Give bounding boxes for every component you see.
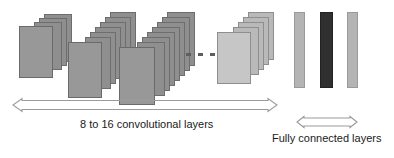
feature-map-card-front [19, 26, 53, 78]
fc-caption: Fully connected layers [272, 132, 381, 145]
conv-block-1 [14, 14, 72, 76]
fc-bar-1 [294, 12, 305, 88]
conv-block-4 [214, 12, 276, 78]
feature-map-card-front [217, 32, 251, 84]
ellipsis-dot [198, 53, 203, 56]
conv-span-arrow [12, 98, 278, 112]
feature-map-card-front [119, 47, 155, 105]
fc-bar-3 [347, 12, 358, 88]
conv-block-3 [117, 12, 195, 96]
feature-map-card-front [68, 42, 102, 98]
fc-span-arrow [296, 116, 358, 128]
conv-caption: 8 to 16 convolutional layers [80, 118, 213, 131]
omitted-layers-ellipsis [186, 53, 215, 56]
cnn-architecture-diagram: 8 to 16 convolutional layers Fully conne… [0, 0, 394, 158]
fc-bar-2 [320, 12, 333, 88]
ellipsis-dot [186, 53, 191, 56]
